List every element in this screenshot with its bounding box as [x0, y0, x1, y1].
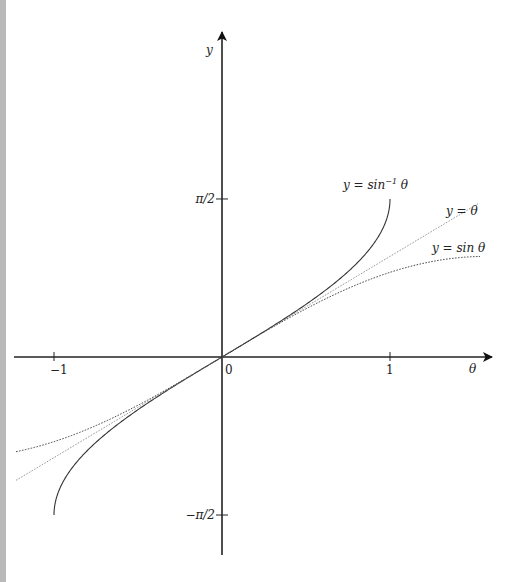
x-tick-label: −1 — [50, 363, 68, 377]
x-tick-label: 1 — [386, 363, 394, 377]
x-axis-label: θ — [469, 362, 477, 376]
y-tick-label: −π/2 — [185, 508, 215, 522]
series-label-identity: y = θ — [445, 204, 478, 218]
x-tick-label: 0 — [225, 363, 233, 377]
chart: −101π/2−π/2 θ y y = sin−1 θy = θy = sin … — [0, 0, 515, 582]
series-label-asin: y = sin−1 θ — [342, 177, 409, 192]
y-axis-label: y — [205, 43, 213, 57]
y-tick-label: π/2 — [194, 192, 215, 206]
series-line-sin — [16, 256, 480, 451]
series-label-sin: y = sin θ — [431, 241, 486, 255]
